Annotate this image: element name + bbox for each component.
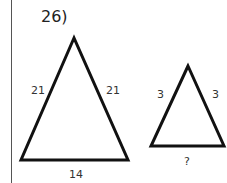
large-left-side-label: 21 (31, 84, 45, 97)
large-base-label: 14 (69, 168, 83, 181)
small-left-side-label: 3 (157, 88, 164, 101)
small-triangle (151, 66, 224, 146)
large-triangle (21, 38, 128, 160)
large-right-side-label: 21 (106, 84, 120, 97)
small-base-label: ? (184, 155, 190, 168)
small-right-side-label: 3 (212, 88, 219, 101)
